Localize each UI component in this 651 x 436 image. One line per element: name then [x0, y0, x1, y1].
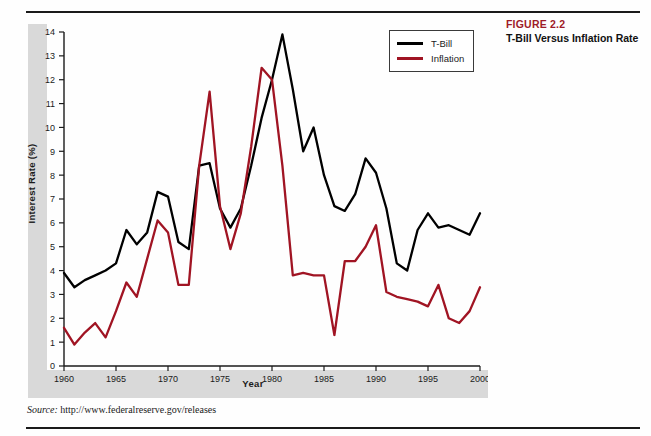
y-tick-label: 12 — [45, 75, 55, 85]
y-tick-label: 8 — [50, 171, 55, 181]
y-tick-label: 14 — [45, 27, 55, 37]
y-tick-label: 4 — [50, 266, 55, 276]
chart-axes: 0123456789101112131419601965197019751980… — [45, 27, 488, 384]
legend-item-t-bill: T-Bill — [397, 36, 464, 51]
figure-title: T-Bill Versus Inflation Rate — [506, 32, 646, 46]
series-line-t-bill — [64, 34, 480, 287]
figure-number: FIGURE 2.2 — [506, 18, 646, 31]
source-url: http://www.federalreserve.gov/releases — [60, 404, 216, 415]
y-tick-label: 2 — [50, 314, 55, 324]
y-tick-label: 5 — [50, 242, 55, 252]
bottom-rule — [26, 427, 640, 429]
chart-legend: T-Bill Inflation — [389, 30, 474, 72]
figure-caption: FIGURE 2.2 T-Bill Versus Inflation Rate — [506, 18, 646, 46]
legend-swatch-inflation — [397, 57, 423, 60]
legend-swatch-t-bill — [397, 42, 423, 45]
source-note: Source: http://www.federalreserve.gov/re… — [27, 404, 216, 415]
legend-label-inflation: Inflation — [431, 53, 464, 64]
legend-label-t-bill: T-Bill — [431, 38, 452, 49]
figure-container: FIGURE 2.2 T-Bill Versus Inflation Rate … — [0, 0, 651, 436]
y-tick-label: 9 — [50, 147, 55, 157]
chart-series-group — [64, 34, 480, 344]
y-axis-title: Interest Rate (%) — [26, 124, 37, 244]
line-chart-svg: 0123456789101112131419601965197019751980… — [18, 18, 488, 400]
x-axis-title: Year — [18, 378, 488, 389]
y-tick-label: 0 — [50, 361, 55, 371]
top-rule — [26, 11, 640, 13]
legend-item-inflation: Inflation — [397, 51, 464, 66]
y-tick-label: 13 — [45, 51, 55, 61]
series-line-inflation — [64, 68, 480, 345]
source-label: Source: — [27, 404, 58, 415]
y-tick-label: 10 — [45, 123, 55, 133]
y-tick-label: 6 — [50, 218, 55, 228]
y-tick-label: 1 — [50, 338, 55, 348]
y-tick-label: 7 — [50, 194, 55, 204]
y-tick-label: 3 — [50, 290, 55, 300]
chart-plot-area: 0123456789101112131419601965197019751980… — [18, 18, 488, 400]
y-tick-label: 11 — [46, 99, 55, 109]
